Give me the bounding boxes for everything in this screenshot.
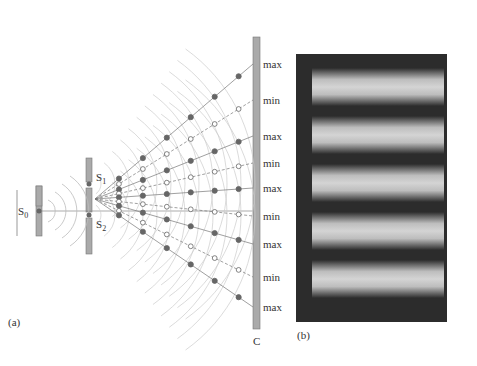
- barrier-upper: [86, 158, 92, 182]
- source-label-s0: S0: [18, 206, 28, 220]
- double-slit-diagram: [0, 0, 477, 366]
- slit-label-s2: S2: [96, 219, 106, 233]
- screen-label-max: max: [263, 131, 282, 142]
- bright-fringe: [312, 116, 444, 154]
- screen-label-min: min: [263, 158, 280, 169]
- bright-fringe: [312, 164, 444, 202]
- slit-label-s1: S1: [96, 172, 106, 186]
- bright-fringe: [312, 212, 444, 250]
- screen-label-max: max: [263, 239, 282, 250]
- panel-a-label: (a): [8, 317, 20, 328]
- screen-label-max: max: [263, 59, 282, 70]
- bright-fringe: [312, 260, 444, 298]
- screen-label-min: min: [263, 211, 280, 222]
- screen-label-max: max: [263, 183, 282, 194]
- screen-label-max: max: [263, 302, 282, 313]
- bright-fringe: [312, 68, 444, 106]
- screen-c: [253, 37, 260, 329]
- screen-label-min: min: [263, 95, 280, 106]
- screen-label-min: min: [263, 272, 280, 283]
- panel-b-label: (b): [297, 330, 310, 341]
- screen-label-c: C: [253, 336, 260, 347]
